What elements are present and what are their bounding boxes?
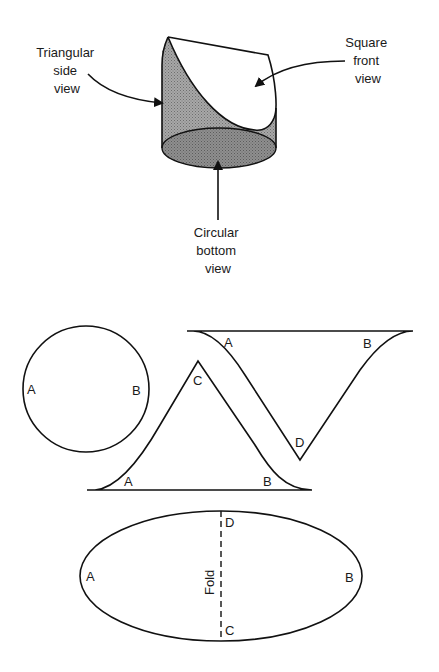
triangle-down-point-d: D — [295, 435, 304, 450]
side-view-arrow — [88, 74, 162, 103]
ellipse-point-d: D — [225, 515, 234, 530]
circle-point-b: B — [132, 383, 141, 398]
ellipse-pattern: A B D C Fold — [80, 511, 362, 641]
circular-bottom-face — [162, 128, 276, 168]
diagram-canvas: Triangular side view Square front view C… — [0, 0, 439, 672]
bottom-view-label: Circular bottom view — [194, 225, 242, 276]
circle-pattern: A B — [23, 326, 149, 452]
cut-cylinder: Triangular side view Square front view C… — [36, 35, 391, 276]
triangle-up-point-c: C — [193, 373, 202, 388]
fold-label: Fold — [202, 570, 217, 595]
side-view-label: Triangular side view — [36, 45, 98, 96]
ellipse-point-a: A — [86, 569, 95, 584]
ellipse-point-c: C — [225, 623, 234, 638]
ellipse-point-b: B — [345, 570, 354, 585]
circle-outline — [23, 326, 149, 452]
triangle-down-point-a: A — [224, 335, 233, 350]
triangle-up-point-a: A — [124, 474, 133, 489]
circle-point-a: A — [27, 382, 36, 397]
triangle-up-point-b: B — [263, 474, 272, 489]
triangle-down-point-b: B — [363, 336, 372, 351]
front-view-label: Square front view — [345, 35, 391, 86]
